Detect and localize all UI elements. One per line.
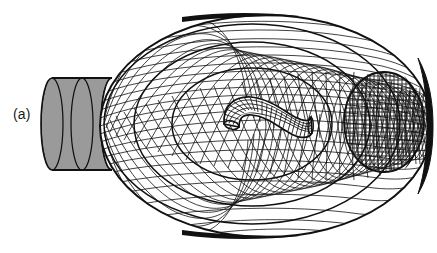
wireframe-figure [0, 0, 437, 253]
figure-container: (a) [0, 0, 437, 253]
panel-label: (a) [13, 106, 31, 122]
